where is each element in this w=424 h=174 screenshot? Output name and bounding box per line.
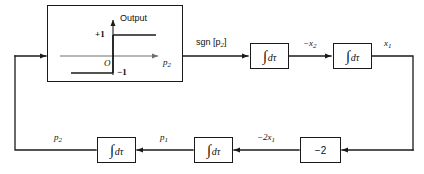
integrator-4-label: ∫dτ bbox=[110, 142, 124, 159]
signal-label-x1: x1 bbox=[384, 39, 392, 50]
origin-label: O bbox=[104, 59, 111, 68]
integrator-3-label: ∫dτ bbox=[207, 142, 221, 159]
integrator-block-3: ∫dτ bbox=[194, 137, 233, 163]
integrator-block-1: ∫dτ bbox=[250, 43, 289, 69]
gain-block-label: −2 bbox=[315, 145, 326, 156]
level-high-label: +1 bbox=[95, 30, 105, 39]
signal-label-minus-2x1: −2x1 bbox=[257, 133, 275, 144]
p2-axis-label: p2 bbox=[163, 58, 171, 69]
block-diagram: Output +1 −1 O p2 ∫dτ ∫dτ ∫dτ ∫dτ −2 sgn… bbox=[0, 0, 424, 174]
signal-label-p2: p2 bbox=[54, 133, 62, 144]
level-low-label: −1 bbox=[117, 68, 127, 77]
integrator-1-label: ∫dτ bbox=[263, 48, 277, 65]
integrator-block-2: ∫dτ bbox=[333, 43, 372, 69]
signal-label-p1: p1 bbox=[160, 133, 168, 144]
integrator-2-label: ∫dτ bbox=[346, 48, 360, 65]
output-axis-label: Output bbox=[120, 14, 147, 23]
signal-label-minus-x2: −x2 bbox=[303, 39, 317, 50]
signal-label-sgn-p2: sgn [p2] bbox=[196, 38, 227, 49]
integrator-block-4: ∫dτ bbox=[97, 137, 136, 163]
gain-block: −2 bbox=[300, 137, 341, 163]
